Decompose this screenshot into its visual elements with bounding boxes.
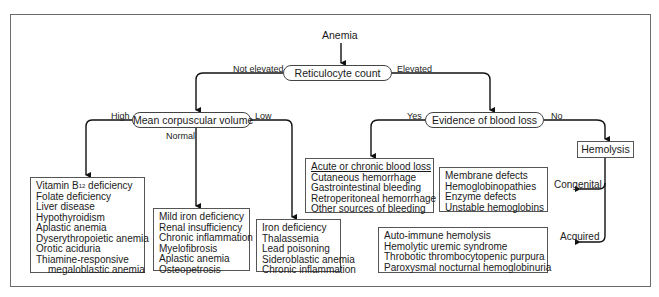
branch-label-no: No (551, 111, 563, 121)
list-item: Enzyme defects (445, 192, 542, 203)
list-item: Throbotic thrombocytopenic purpura (384, 252, 542, 263)
list-item: megaloblastic anemia (36, 265, 139, 276)
list-item: Membrane defects (445, 171, 542, 182)
list-item: Mild iron deficiency (159, 212, 244, 223)
branch-label-low: Low (255, 111, 272, 121)
blood-loss-causes-box: Acute or chronic blood loss Cutaneous he… (305, 158, 434, 213)
list-item: Paroxysmal nocturnal hemoglobinuria (384, 263, 542, 274)
list-item: Aplastic anemia (36, 223, 139, 234)
evidence-of-blood-loss-node: Evidence of blood loss (425, 112, 544, 128)
branch-label-acquired: Acquired (560, 232, 599, 242)
box-header: Acute or chronic blood loss (311, 162, 428, 173)
reticulocyte-count-node: Reticulocyte count (283, 65, 392, 81)
list-item: Iron deficiency (262, 223, 335, 234)
list-item: Lead poisoning (262, 244, 335, 255)
list-item: Chronic inflammation (262, 265, 335, 276)
normal-mcv-causes-box: Mild iron deficiency Renal insufficiency… (153, 208, 250, 271)
list-item: Liver disease (36, 202, 139, 213)
branch-label-high: High (111, 111, 130, 121)
list-item: Auto-immune hemolysis (384, 231, 542, 242)
list-item: Other sources of bleeding (311, 204, 428, 215)
list-item: Unstable hemoglobins (445, 203, 542, 214)
list-item: Vitamin B12 deficiency (36, 181, 139, 192)
acquired-hemolysis-box: Auto-immune hemolysis Hemolytic uremic s… (378, 227, 548, 273)
low-mcv-causes-box: Iron deficiency Thalassemia Lead poisoni… (256, 219, 341, 272)
list-item: Orotic aciduria (36, 244, 139, 255)
high-mcv-causes-box: Vitamin B12 deficiency Folate deficiency… (30, 177, 145, 273)
list-item: Aplastic anemia (159, 254, 244, 265)
branch-label-normal: Normal (166, 131, 195, 141)
branch-label-elevated: Elevated (397, 64, 432, 74)
hemolysis-node: Hemolysis (577, 141, 634, 158)
list-item: Osteopetrosis (159, 265, 244, 276)
list-item: Chronic inflammation (159, 233, 244, 244)
mean-corpuscular-volume-node: Mean corpuscular volume (132, 112, 251, 128)
branch-label-congenital: Congenital (554, 180, 602, 190)
branch-label-not-elevated: Not elevated (233, 64, 284, 74)
congenital-hemolysis-box: Membrane defects Hemoglobinopathies Enzy… (439, 167, 548, 212)
list-item: Gastrointestinal bleeding (311, 183, 428, 194)
branch-label-yes: Yes (407, 111, 422, 121)
root-node-anemia: Anemia (322, 29, 358, 41)
